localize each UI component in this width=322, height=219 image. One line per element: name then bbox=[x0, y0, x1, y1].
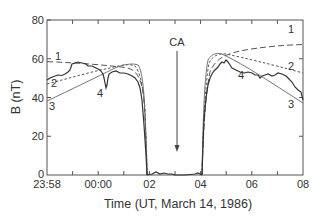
curve-label-3-left: 3 bbox=[49, 100, 55, 112]
x-tick-2358: 23:58 bbox=[33, 178, 61, 190]
x-axis-title: Time (UT, March 14, 1986) bbox=[104, 197, 252, 211]
curve-label-2-left: 2 bbox=[51, 77, 57, 89]
x-tick-06: 06 bbox=[246, 178, 258, 190]
magnetic-field-chart: 80 60 40 20 0 23:58 00:00 02 04 06 08 B … bbox=[0, 0, 322, 219]
curve-label-4-right: 4 bbox=[238, 69, 244, 81]
ca-label: CA bbox=[169, 36, 185, 48]
y-tick-40: 40 bbox=[32, 92, 44, 104]
y-tick-60: 60 bbox=[32, 53, 44, 65]
curve-2 bbox=[47, 54, 303, 175]
y-tick-80: 80 bbox=[32, 14, 44, 26]
x-tick-02: 02 bbox=[143, 178, 155, 190]
curve-label-1-left: 1 bbox=[55, 50, 61, 62]
curve-4-observed bbox=[47, 60, 303, 175]
curve-label-4-left: 4 bbox=[97, 87, 103, 99]
ca-arrow-head-icon bbox=[175, 145, 180, 152]
x-tick-08: 08 bbox=[297, 178, 309, 190]
y-axis-title: B (nT) bbox=[9, 80, 23, 115]
curve-label-1-right: 1 bbox=[288, 23, 294, 35]
curve-3 bbox=[47, 53, 303, 175]
curve-label-3-right: 3 bbox=[288, 98, 294, 110]
curve-label-2-right: 2 bbox=[288, 60, 294, 72]
y-tick-20: 20 bbox=[32, 130, 44, 142]
x-tick-04: 04 bbox=[194, 178, 206, 190]
x-tick-0000: 00:00 bbox=[84, 178, 112, 190]
